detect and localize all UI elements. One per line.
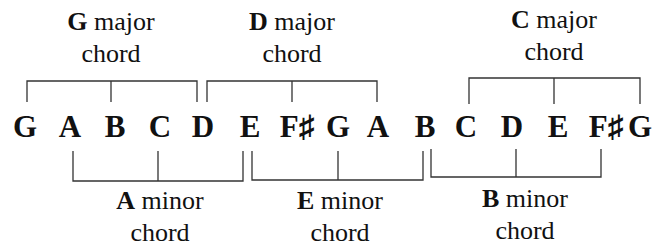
chord-root: A bbox=[116, 186, 135, 215]
chord-quality: major bbox=[536, 5, 597, 34]
bracket-g-major bbox=[27, 81, 197, 102]
chord-quality: minor bbox=[506, 184, 568, 213]
note: E bbox=[240, 109, 261, 145]
note: F♯ bbox=[589, 109, 623, 145]
label-b-minor: B minor chord bbox=[482, 183, 568, 247]
bracket-e-minor bbox=[252, 151, 423, 180]
label-e-minor: E minor chord bbox=[297, 185, 383, 249]
note: E bbox=[548, 109, 569, 145]
chord-root: B bbox=[482, 184, 499, 213]
bracket-d-major bbox=[207, 81, 377, 102]
chord-word: chord bbox=[524, 37, 583, 66]
chord-root: D bbox=[249, 7, 268, 36]
note: C bbox=[149, 109, 171, 145]
label-a-minor: A minor chord bbox=[116, 185, 203, 249]
note: B bbox=[105, 109, 126, 145]
label-c-major: C major chord bbox=[511, 4, 597, 68]
chord-quality: minor bbox=[321, 186, 383, 215]
chord-quality: minor bbox=[142, 186, 204, 215]
note: G bbox=[628, 109, 652, 145]
chord-word: chord bbox=[81, 39, 140, 68]
chord-root: C bbox=[511, 5, 530, 34]
bracket-c-major bbox=[469, 78, 640, 104]
chord-root: E bbox=[297, 186, 314, 215]
chord-word: chord bbox=[262, 39, 321, 68]
label-d-major: D major chord bbox=[249, 6, 335, 70]
note: C bbox=[455, 109, 477, 145]
note: G bbox=[326, 109, 350, 145]
note: A bbox=[59, 109, 81, 145]
chord-word: chord bbox=[130, 218, 189, 247]
note: F♯ bbox=[280, 109, 314, 145]
chord-root: G bbox=[67, 7, 87, 36]
note: A bbox=[367, 109, 389, 145]
note: G bbox=[13, 109, 37, 145]
label-g-major: G major chord bbox=[67, 6, 154, 70]
note: D bbox=[501, 109, 523, 145]
chord-word: chord bbox=[495, 216, 554, 245]
note: B bbox=[415, 109, 436, 145]
note: D bbox=[192, 109, 214, 145]
bracket-a-minor bbox=[73, 151, 243, 181]
bracket-b-minor bbox=[431, 149, 601, 177]
chord-word: chord bbox=[310, 218, 369, 247]
chord-quality: major bbox=[274, 7, 335, 36]
chord-quality: major bbox=[94, 7, 155, 36]
